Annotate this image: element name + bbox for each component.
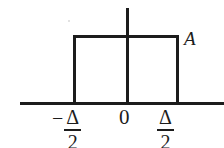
left-tick-label: − Δ 2 [52,107,81,148]
vertical-axis [126,8,129,105]
left-tick-minus-sign: − [52,107,64,128]
left-tick-numerator: Δ [66,107,79,128]
right-tick-label: Δ 2 [157,107,174,148]
scan-artifact-speck [68,20,70,22]
right-tick-denominator: 2 [161,132,171,148]
origin-label: 0 [119,107,130,128]
pulse-left-edge [73,35,76,105]
pulse-figure: A 0 − Δ 2 Δ 2 [0,0,224,148]
pulse-right-edge [176,35,179,105]
right-tick-numerator: Δ [159,107,172,128]
left-tick-denominator: 2 [68,132,78,148]
amplitude-label: A [184,29,196,48]
pulse-top-edge [73,35,179,38]
